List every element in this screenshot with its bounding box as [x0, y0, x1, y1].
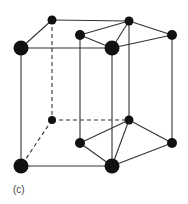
hcp-unit-cell-diagram	[0, 0, 188, 204]
atom	[75, 30, 85, 40]
atom	[167, 138, 177, 148]
atom	[125, 116, 134, 125]
atom	[14, 159, 29, 174]
solid-edges	[21, 20, 172, 166]
atom	[167, 30, 177, 40]
atom	[48, 116, 56, 124]
atom	[125, 17, 134, 26]
atom	[105, 41, 120, 56]
figure-label: (c)	[13, 184, 25, 195]
atom	[105, 159, 120, 174]
atom	[75, 138, 85, 148]
atom	[14, 41, 29, 56]
atom	[48, 16, 57, 25]
